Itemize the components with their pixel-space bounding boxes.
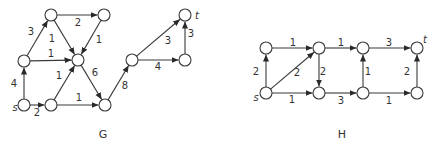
node-H-b — [313, 42, 325, 54]
edge-weight-label: 3 — [386, 37, 392, 48]
node-G-x — [72, 54, 84, 66]
edge-weight-label: 2 — [404, 66, 410, 77]
edge-weight-label: 4 — [155, 61, 161, 72]
node-H-t — [411, 42, 423, 54]
edge-weight-label: 1 — [365, 66, 371, 77]
edge-weight-label: 1 — [290, 37, 296, 48]
edge-weight-label: 1 — [96, 34, 102, 45]
node-H-a — [260, 42, 272, 54]
node-H-s — [260, 87, 272, 99]
edge-weight-label: 3 — [165, 35, 171, 46]
node-G-b — [18, 55, 30, 67]
graph-figure: 42312111168343stG22112131312stH — [0, 0, 440, 148]
edge-G-a-x — [54, 20, 75, 54]
edge-weight-label: 6 — [92, 67, 98, 78]
node-G-s — [18, 99, 30, 111]
node-G-m — [126, 54, 138, 66]
node-name-label: s — [12, 102, 17, 113]
node-name-label: t — [423, 34, 428, 45]
node-H-e — [357, 87, 369, 99]
edge-weight-label: 2 — [320, 66, 326, 77]
edge-weight-label: 1 — [56, 70, 62, 81]
node-G-t — [179, 9, 191, 21]
edge-weight-label: 3 — [188, 28, 194, 39]
edge-weight-label: 1 — [48, 48, 54, 59]
edge-weight-label: 2 — [34, 107, 40, 118]
node-G-y — [99, 99, 111, 111]
edge-weight-label: 1 — [338, 37, 344, 48]
edge-weight-label: 3 — [338, 95, 344, 106]
edge-G-m-t — [137, 19, 180, 56]
graph-caption: H — [338, 128, 346, 141]
edge-weight-label: 2 — [253, 66, 259, 77]
edge-weight-label: 8 — [122, 80, 128, 91]
node-H-d — [357, 42, 369, 54]
node-H-c — [313, 87, 325, 99]
edge-weight-label: 1 — [289, 94, 295, 105]
node-G-c — [45, 99, 57, 111]
edge-G-b-x — [30, 60, 72, 61]
graph-caption: G — [99, 128, 108, 141]
edge-H-s-b — [271, 52, 314, 89]
edge-weight-label: 1 — [386, 95, 392, 106]
node-G-d — [98, 9, 110, 21]
node-G-r — [179, 54, 191, 66]
edge-weight-label: 4 — [11, 78, 17, 89]
labels-layer: 42312111168343stG22112131312stH — [11, 10, 428, 141]
edge-weight-label: 1 — [49, 33, 55, 44]
node-G-a — [45, 9, 57, 21]
node-H-f — [411, 87, 423, 99]
edge-weight-label: 2 — [75, 17, 81, 28]
edge-weight-label: 2 — [294, 67, 300, 78]
node-name-label: s — [253, 92, 258, 103]
node-name-label: t — [195, 10, 200, 21]
edge-weight-label: 1 — [76, 92, 82, 103]
edge-weight-label: 3 — [28, 26, 34, 37]
